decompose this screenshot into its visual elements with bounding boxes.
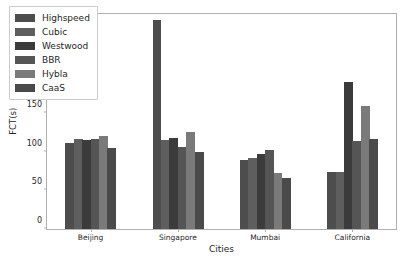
y-axis-tick-mark (44, 228, 47, 229)
x-axis-tick-label: Mumbai (250, 234, 280, 242)
x-axis-label: Cities (46, 245, 397, 254)
y-axis-tick-label: 50 (32, 178, 47, 186)
y-axis-tick-label: 100 (27, 140, 47, 148)
legend-item-label: BBR (42, 56, 61, 65)
x-axis-tick-mark (178, 229, 179, 232)
plot-area: 050100150200250BeijingSingaporeMumbaiCal… (47, 14, 396, 229)
legend-swatch-icon (15, 56, 35, 64)
y-axis-tick-label: 0 (37, 217, 47, 225)
x-axis-tick-label: Singapore (159, 234, 197, 242)
legend-swatch-icon (15, 84, 35, 92)
x-axis-tick-mark (265, 229, 266, 232)
chart-figure: FCT(s) 050100150200250BeijingSingaporeMu… (0, 0, 413, 263)
legend-swatch-icon (15, 42, 35, 50)
legend-item-cubic[interactable]: Cubic (15, 25, 90, 39)
legend-item-westwood[interactable]: Westwood (15, 39, 90, 53)
plot-axes: 050100150200250BeijingSingaporeMumbaiCal… (46, 13, 397, 230)
x-axis-tick-label: Beijing (78, 234, 104, 242)
legend-item-label: Highspeed (42, 14, 90, 23)
y-axis-tick-mark (44, 150, 47, 151)
legend-item-caas[interactable]: CaaS (15, 81, 90, 95)
y-axis-tick-mark (44, 189, 47, 190)
legend-swatch-icon (15, 14, 35, 22)
legend-swatch-icon (15, 28, 35, 36)
legend-item-bbr[interactable]: BBR (15, 53, 90, 67)
chart-legend: HighspeedCubicWestwoodBBRHyblaCaaS (9, 6, 98, 100)
legend-item-hybla[interactable]: Hybla (15, 67, 90, 81)
bar-california-caas (369, 139, 378, 229)
x-axis-tick-mark (91, 229, 92, 232)
legend-item-label: CaaS (42, 84, 65, 93)
legend-swatch-icon (15, 70, 35, 78)
bar-beijing-caas (107, 148, 116, 229)
y-axis-tick-label: 150 (27, 101, 47, 109)
legend-item-label: Westwood (42, 42, 88, 51)
bar-mumbai-caas (282, 178, 291, 229)
y-axis-label-text: FCT(s) (10, 108, 19, 135)
bar-singapore-caas (195, 152, 204, 229)
x-axis-tick-label: California (335, 234, 371, 242)
legend-item-highspeed[interactable]: Highspeed (15, 11, 90, 25)
x-axis-tick-mark (352, 229, 353, 232)
y-axis-tick-mark (44, 112, 47, 113)
legend-item-label: Cubic (42, 28, 67, 37)
legend-item-label: Hybla (42, 70, 68, 79)
